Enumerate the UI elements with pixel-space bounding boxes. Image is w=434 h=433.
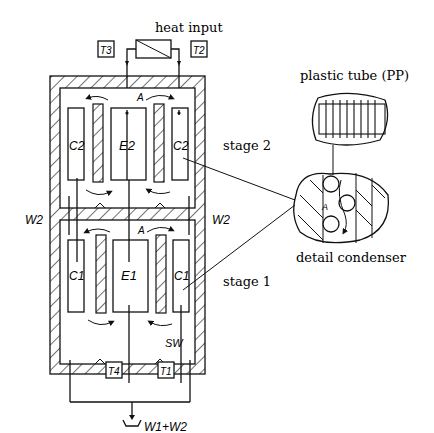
T4-sensor: T4 bbox=[106, 362, 122, 378]
label-W2-left: W2 bbox=[25, 213, 43, 227]
stage-1-label: stage 1 bbox=[223, 274, 271, 289]
heater-icon bbox=[136, 40, 171, 58]
label-C2-right: C2 bbox=[173, 139, 189, 153]
label-A-top: A bbox=[136, 92, 144, 103]
svg-text:T4: T4 bbox=[108, 366, 120, 377]
collector-icon bbox=[123, 420, 141, 426]
svg-text:T2: T2 bbox=[193, 45, 205, 56]
label-A-detail: A bbox=[321, 202, 328, 212]
heat-input-label: heat input bbox=[155, 20, 223, 35]
label-W2-right: W2 bbox=[212, 213, 230, 227]
plastic-tube-detail bbox=[312, 93, 387, 145]
label-output: W1+W2 bbox=[144, 420, 187, 433]
T2-sensor: T2 bbox=[191, 41, 207, 57]
label-SW: SW bbox=[165, 337, 184, 349]
T1-sensor: T1 bbox=[158, 362, 174, 378]
distillation-diagram: heat input T3 T2 C2 E2 C2 A bbox=[0, 0, 434, 433]
T3-sensor: T3 bbox=[98, 41, 114, 57]
label-A-mid: A bbox=[137, 225, 145, 236]
label-C2-left: C2 bbox=[69, 139, 85, 153]
label-C1-left: C1 bbox=[69, 269, 84, 283]
stage-2-label: stage 2 bbox=[223, 138, 271, 153]
condenser-detail: A bbox=[294, 173, 389, 243]
plastic-tube-label: plastic tube (PP) bbox=[300, 68, 409, 83]
label-E1: E1 bbox=[121, 268, 137, 283]
svg-text:T3: T3 bbox=[100, 45, 112, 56]
label-C1-right: C1 bbox=[174, 269, 189, 283]
detail-condenser-label: detail condenser bbox=[296, 250, 407, 265]
svg-text:T1: T1 bbox=[160, 366, 172, 377]
